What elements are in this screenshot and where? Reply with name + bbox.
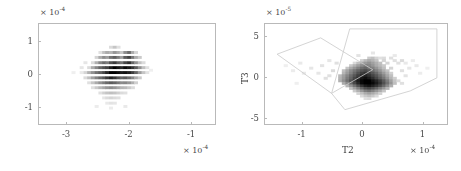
right-x-axis-title: T2 [342,146,354,155]
y-tickmark [264,36,267,37]
chart-panel-right: × 10-5 T3 T2 × 10-4 -10150-5 [230,0,461,171]
right-y-axis-title: T3 [241,72,250,84]
y-tick-label: -1 [25,103,33,112]
x-tick-label: -1 [297,130,305,139]
y-tick-label: 0 [28,70,33,79]
y-tickmark [264,77,267,78]
x-tick-label: -1 [187,130,195,139]
left-y-exponent-label: × 10-4 [40,9,65,17]
y-tick-label: -5 [251,113,259,122]
y-tick-label: 5 [254,32,259,41]
chart-panel-left: × 10-4 × 10-4 -3-2-110-1 [0,0,230,171]
y-tickmark [38,107,41,108]
x-tick-label: 1 [420,130,425,139]
left-density-canvas [39,24,217,126]
x-tick-label: -2 [124,130,132,139]
x-tick-label: -3 [62,130,70,139]
right-y-exponent-label: × 10-5 [266,9,291,17]
y-tick-label: 0 [254,73,259,82]
left-x-exponent-label: × 10-4 [183,147,208,155]
y-tickmark [38,74,41,75]
right-density-canvas [265,24,449,126]
x-tickmark [302,122,303,125]
y-tickmark [38,41,41,42]
right-x-exponent-label: × 10-4 [410,147,435,155]
x-tickmark [129,122,130,125]
left-plot-area [38,23,216,125]
scatter-density-figure: × 10-4 × 10-4 -3-2-110-1 × 10-5 T3 T2 × … [0,0,461,171]
x-tickmark [362,122,363,125]
x-tickmark [191,122,192,125]
right-plot-area [264,23,448,125]
y-tickmark [264,118,267,119]
y-tick-label: 1 [28,37,33,46]
x-tickmark [66,122,67,125]
x-tick-label: 0 [359,130,364,139]
x-tickmark [423,122,424,125]
